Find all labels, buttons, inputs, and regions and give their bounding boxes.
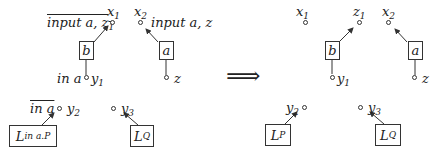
label-z-right: z [422, 72, 429, 85]
label-y2: y2 [67, 102, 80, 118]
process-box-LQ-left: LQ [130, 125, 154, 147]
label-z: z [174, 72, 181, 85]
label-input-bar-z1: input a, z1 [47, 16, 114, 32]
label-in-a-bar: in a [30, 102, 54, 115]
process-box-a-right: a [408, 41, 423, 60]
label-x1: x1 [107, 5, 120, 21]
label-x1-right: x1 [296, 5, 309, 21]
label-y1-right: y1 [337, 72, 350, 88]
label-input-z: input a, z [151, 16, 212, 29]
node-x2-right [386, 20, 391, 25]
implies-arrow-icon: ⟹ [226, 64, 260, 88]
node-x1 [110, 20, 115, 25]
process-box-b: b [79, 41, 94, 60]
node-z-right [412, 75, 417, 80]
label-x2-right: x2 [382, 5, 395, 21]
process-box-L-in-a-P: Lin a.P [9, 125, 57, 147]
label-z1-right: z1 [353, 5, 366, 21]
label-y3-right: y3 [368, 101, 381, 117]
label-y2-right: y2 [286, 101, 299, 117]
node-y1 [84, 75, 89, 80]
node-y3 [111, 106, 116, 111]
label-y3: y3 [121, 102, 134, 118]
label-x2: x2 [134, 5, 147, 21]
node-y2 [57, 106, 62, 111]
process-box-a: a [159, 41, 174, 60]
node-x1-right [303, 20, 308, 25]
node-z1-right [357, 20, 362, 25]
node-y3-right [358, 105, 363, 110]
label-in-a: in a [57, 72, 81, 85]
node-z [164, 75, 169, 80]
node-y2-right [302, 105, 307, 110]
label-y1: y1 [91, 72, 104, 88]
node-y1-right [330, 75, 335, 80]
process-box-LP-right: LP [265, 124, 291, 146]
process-box-b-right: b [325, 41, 340, 60]
node-x2 [138, 20, 143, 25]
process-box-LQ-right: LQ [375, 124, 401, 146]
